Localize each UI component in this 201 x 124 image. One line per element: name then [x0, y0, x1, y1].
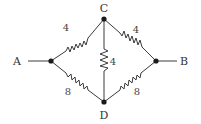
node-label-b: B — [180, 55, 188, 68]
resistor-cd — [100, 19, 108, 102]
resistor-cb — [104, 19, 156, 61]
node-d — [101, 99, 106, 104]
resistor-value-ad: 8 — [65, 86, 71, 97]
resistor-ad — [51, 61, 104, 102]
node-b — [153, 58, 158, 63]
resistor-db — [104, 61, 156, 102]
resistor-value-cb: 4 — [133, 24, 139, 35]
circuit-diagram: A B C D 4 4 4 8 8 — [0, 0, 201, 124]
node-label-c: C — [100, 2, 108, 15]
resistor-value-ac: 4 — [63, 22, 69, 33]
node-c — [101, 16, 106, 21]
node-a — [48, 58, 53, 63]
node-label-a: A — [12, 55, 22, 68]
resistor-value-db: 8 — [134, 86, 140, 97]
resistor-ac — [51, 19, 104, 61]
resistor-value-cd: 4 — [110, 56, 116, 67]
node-label-d: D — [100, 109, 109, 122]
